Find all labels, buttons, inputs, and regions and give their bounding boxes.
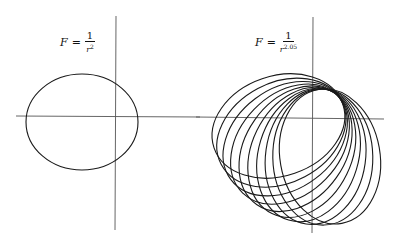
formula-right-lhs: F [255,36,263,49]
formula-left-numerator: 1 [85,30,95,42]
precessing-orbit-ellipse [241,75,376,234]
left-y-axis [115,16,116,230]
precessing-orbit-ellipse [257,82,375,231]
formula-left: F = 1 r2 [60,30,95,55]
formula-right-exponent: 2.05 [284,43,297,50]
formula-right-numerator: 1 [283,30,293,42]
closed-orbit-ellipse [26,74,138,170]
formula-left-fraction: 1 r2 [85,30,95,55]
formula-right-denominator: r2.05 [280,42,297,55]
precessing-orbits [198,57,391,236]
formula-right-equals: = [267,36,276,49]
formula-right-fraction: 1 r2.05 [280,30,297,55]
formula-left-lhs: F [60,36,68,49]
precessing-orbit-ellipse [207,61,373,228]
formula-left-denominator: r2 [86,42,94,55]
formula-right: F = 1 r2.05 [255,30,297,55]
formula-left-exponent: 2 [90,43,94,50]
left-x-axis [16,116,200,117]
formula-left-equals: = [72,36,81,49]
